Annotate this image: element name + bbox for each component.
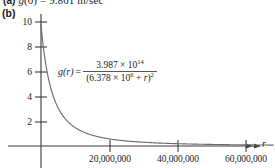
gravity-curve bbox=[41, 24, 273, 145]
denominator-mid: + bbox=[134, 73, 144, 83]
y-tick-label-2: 2 bbox=[12, 118, 32, 128]
formula-annotation: g(r) = 3.987 × 1014 (6.378 × 106 + r)2 bbox=[58, 60, 157, 84]
formula-numerator: 3.987 × 1014 bbox=[93, 60, 146, 71]
denominator-power: 2 bbox=[151, 71, 154, 78]
gravity-function-plot bbox=[0, 0, 275, 168]
numerator-mantissa: 3.987 × 10 bbox=[96, 60, 137, 70]
formula-denominator: (6.378 × 106 + r)2 bbox=[83, 72, 157, 83]
numerator-exponent: 14 bbox=[137, 58, 143, 65]
x-tick-label-20000000: 20,000,000 bbox=[75, 155, 145, 165]
x-tick-label-60000000: 60,000,000 bbox=[211, 155, 275, 165]
formula-lhs: g(r) bbox=[58, 66, 74, 77]
formula-equals: = bbox=[76, 66, 82, 77]
formula-fraction: 3.987 × 1014 (6.378 × 106 + r)2 bbox=[83, 60, 157, 84]
y-tick-label-8: 8 bbox=[12, 43, 32, 53]
y-tick-label-4: 4 bbox=[12, 93, 32, 103]
denominator-open: (6.378 × 10 bbox=[86, 73, 130, 83]
y-tick-label-10: 10 bbox=[12, 18, 32, 28]
x-axis-variable-label: r bbox=[262, 138, 266, 149]
y-tick-label-6: 6 bbox=[12, 68, 32, 78]
x-tick-label-40000000: 40,000,000 bbox=[143, 155, 213, 165]
